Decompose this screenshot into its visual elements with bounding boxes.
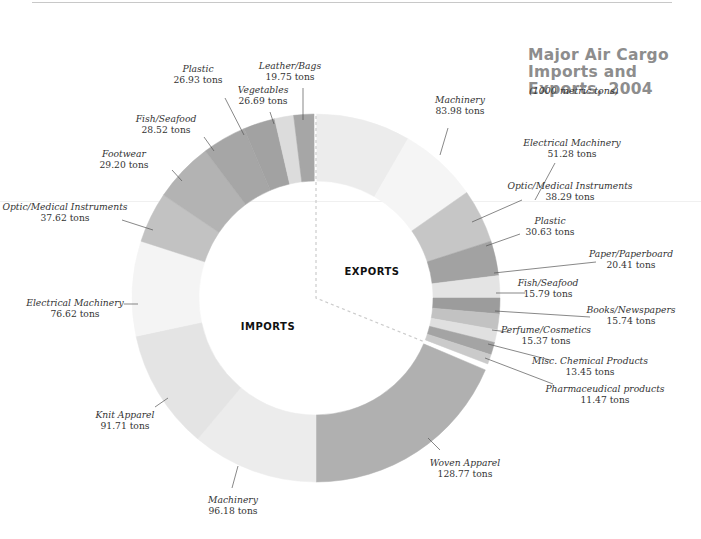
segment-value: 38.29 tons [545, 191, 594, 202]
leader-line [440, 128, 448, 155]
leader-line [472, 200, 522, 222]
segment-value: 76.62 tons [50, 308, 99, 319]
segment-value: 51.28 tons [547, 148, 596, 159]
segment-value: 15.74 tons [606, 315, 655, 326]
segment-value: 11.47 tons [580, 394, 629, 405]
segment-value: 26.69 tons [238, 95, 287, 106]
donut-chart: Machinery83.98 tonsElectrical Machinery5… [0, 0, 701, 539]
segment-value: 83.98 tons [435, 105, 484, 116]
leader-line [495, 311, 590, 317]
segment-label: Optic/Medical Instruments [507, 180, 632, 191]
segment-label: Footwear [101, 148, 146, 159]
segment-label: Optic/Medical Instruments [2, 201, 127, 212]
leader-line [232, 466, 238, 488]
segment-label: Plastic [181, 63, 213, 74]
segment-label: Perfume/Cosmetics [500, 324, 591, 335]
segment-value: 15.79 tons [523, 288, 572, 299]
segment-label: Woven Apparel [430, 457, 501, 468]
segment-label: Electrical Machinery [522, 137, 621, 148]
leader-line [428, 438, 440, 450]
segment-label: Electrical Machinery [25, 297, 124, 308]
segment-value: 128.77 tons [438, 468, 493, 479]
group-label-exports: EXPORTS [344, 266, 399, 277]
segment-value: 37.62 tons [40, 212, 89, 223]
segment-value: 91.71 tons [100, 420, 149, 431]
segment-value: 28.52 tons [141, 124, 190, 135]
segment-label: Leather/Bags [258, 60, 322, 71]
segment-label: Machinery [434, 94, 486, 105]
segment-label: Vegetables [238, 84, 289, 95]
segment-value: 13.45 tons [565, 366, 614, 377]
segment-label: Plastic [533, 215, 565, 226]
segment-label: Misc. Chemical Products [531, 355, 648, 366]
group-label-imports: IMPORTS [241, 321, 295, 332]
segment-value: 29.20 tons [99, 159, 148, 170]
segment-label: Fish/Seafood [517, 277, 579, 288]
segment-value: 19.75 tons [265, 71, 314, 82]
leader-line [486, 234, 520, 246]
segment-label: Machinery [207, 494, 259, 505]
segment-label: Knit Apparel [95, 409, 155, 420]
segment-value: 96.18 tons [208, 505, 257, 516]
leader-line [494, 262, 596, 273]
segment-label: Pharmaceudical products [544, 383, 664, 394]
segment-value: 26.93 tons [173, 74, 222, 85]
segment-value: 15.37 tons [521, 335, 570, 346]
segment-label: Fish/Seafood [135, 113, 197, 124]
segment-value: 30.63 tons [525, 226, 574, 237]
segment-label: Paper/Paperboard [588, 248, 673, 259]
segment-label: Books/Newspapers [585, 304, 675, 315]
segment-value: 20.41 tons [606, 259, 655, 270]
